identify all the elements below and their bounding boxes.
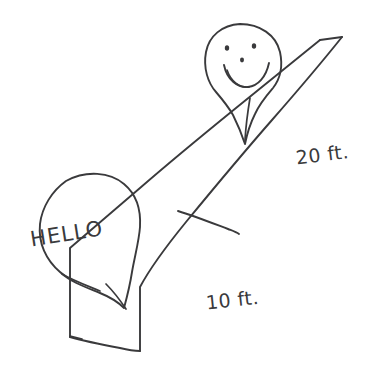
smile-arc-overstroke bbox=[227, 70, 249, 87]
lower-segment-label: 10 ft. bbox=[205, 286, 260, 313]
left-eye-dot bbox=[225, 45, 229, 51]
plank-upper-edge bbox=[70, 40, 320, 337]
smile-arc bbox=[224, 63, 269, 87]
right-eye-dot bbox=[252, 43, 256, 49]
division-tick-mark bbox=[178, 211, 239, 234]
sketch-drawing: HELLO 20 ft. 10 ft. bbox=[0, 0, 376, 385]
smiley-face bbox=[205, 24, 281, 144]
head-outline bbox=[205, 24, 281, 144]
sketch-canvas: HELLO 20 ft. 10 ft. bbox=[0, 0, 376, 385]
upper-segment-label: 20 ft. bbox=[295, 140, 350, 168]
plank-top-end-cap bbox=[320, 37, 342, 40]
nose-dot bbox=[240, 58, 244, 63]
bubble-lower-wall bbox=[62, 274, 100, 291]
tick-stroke bbox=[178, 211, 239, 234]
measurement-labels: 20 ft. 10 ft. bbox=[205, 140, 350, 313]
speech-bubble: HELLO bbox=[29, 174, 140, 309]
